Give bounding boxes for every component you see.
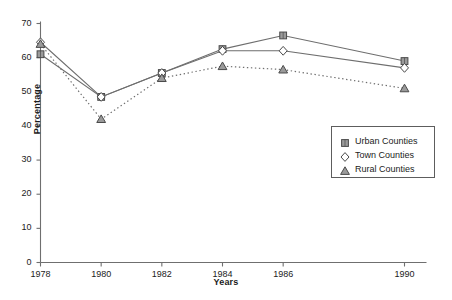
x-tick-label: 1982 xyxy=(142,269,182,279)
square-marker xyxy=(280,32,287,39)
square-marker-icon xyxy=(339,135,351,147)
diamond-marker xyxy=(279,46,287,55)
x-axis-title: Years xyxy=(180,277,272,287)
y-tick-label: 0 xyxy=(8,257,32,267)
triangle-marker-icon xyxy=(339,163,351,175)
y-tick-label: 70 xyxy=(8,18,32,28)
triangle-marker xyxy=(218,62,227,70)
legend-label: Urban Counties xyxy=(355,135,418,147)
chart-legend: Urban CountiesTown CountiesRural Countie… xyxy=(331,126,435,178)
x-tick-label: 1978 xyxy=(21,269,61,279)
y-tick-label: 10 xyxy=(8,222,32,232)
y-tick-label: 20 xyxy=(8,188,32,198)
x-tick-label: 1984 xyxy=(203,269,243,279)
diamond-marker-icon xyxy=(339,149,351,161)
y-tick-label: 50 xyxy=(8,86,32,96)
x-tick-label: 1986 xyxy=(263,269,303,279)
x-tick-label: 1980 xyxy=(81,269,121,279)
square-marker xyxy=(37,51,44,58)
y-tick-label: 30 xyxy=(8,154,32,164)
legend-label: Rural Counties xyxy=(355,163,415,175)
legend-item: Town Counties xyxy=(339,148,414,162)
square-marker xyxy=(342,140,349,147)
diamond-marker xyxy=(341,153,349,162)
y-tick-label: 60 xyxy=(8,52,32,62)
legend-item: Rural Counties xyxy=(339,162,415,176)
legend-label: Town Counties xyxy=(355,149,414,161)
x-tick-label: 1990 xyxy=(385,269,425,279)
y-tick-label: 40 xyxy=(8,120,32,130)
triangle-marker xyxy=(341,167,350,175)
x-axis-ticks xyxy=(41,263,405,267)
line-chart: Percentage Years 010203040506070 1978198… xyxy=(0,0,452,300)
y-axis-title: Percentage xyxy=(32,74,42,144)
legend-item: Urban Counties xyxy=(339,134,418,148)
